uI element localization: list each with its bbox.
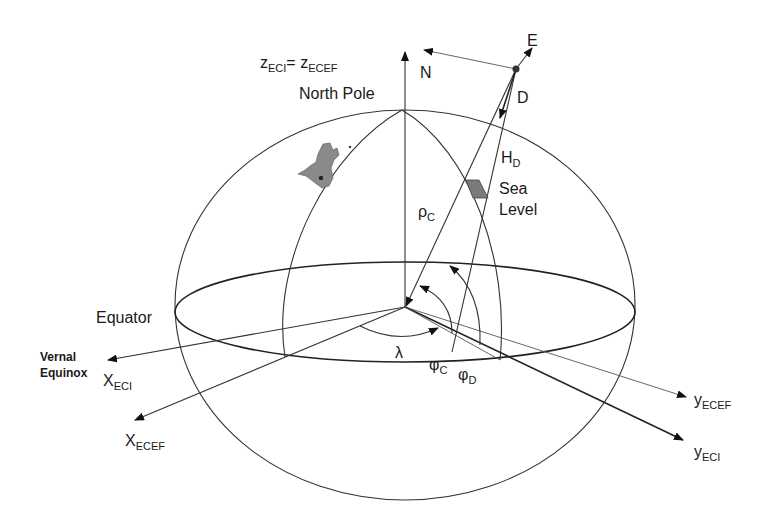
right-meridian	[402, 110, 502, 360]
equator-label: Equator	[96, 309, 153, 326]
lambda-label: λ	[395, 344, 403, 361]
sea-level-label-2: Level	[499, 201, 537, 218]
left-meridian	[283, 110, 402, 357]
east-vector	[516, 48, 532, 69]
coordinate-frame-diagram: zECI= zECEF N North Pole E D HD Sea Leve…	[0, 0, 773, 513]
x-eci-axis	[108, 307, 405, 360]
north-label: N	[420, 64, 432, 81]
phi-d-label: φD	[458, 366, 476, 386]
vehicle-position-point	[513, 66, 520, 73]
z-axis-label: zECI= zECEF	[260, 54, 338, 74]
down-label: D	[517, 89, 529, 106]
north-pole-label: North Pole	[299, 85, 375, 102]
phi-d-arc	[450, 266, 480, 345]
north-vector	[424, 50, 516, 69]
x-eci-label: XECI	[103, 372, 132, 392]
x-ecef-axis	[135, 307, 405, 420]
phi-c-arc	[420, 286, 452, 333]
landmass-dot	[319, 176, 323, 180]
phi-c-label: φC	[429, 356, 447, 376]
island-dot	[349, 146, 352, 149]
east-label: E	[527, 32, 538, 49]
x-ecef-label: XECEF	[125, 432, 165, 452]
landmass-europe	[298, 143, 339, 188]
lambda-arc	[360, 326, 438, 337]
vernal-equinox-label-1: Vernal	[40, 350, 76, 364]
rho-c-label: ρC	[418, 203, 435, 223]
down-vector	[500, 69, 516, 118]
y-eci-label: yECI	[694, 443, 720, 463]
vernal-equinox-label-2: Equinox	[40, 366, 88, 380]
height-label: HD	[501, 149, 521, 169]
sea-level-patch	[466, 180, 488, 198]
sea-level-label-1: Sea	[499, 180, 528, 197]
y-ecef-axis	[405, 307, 686, 397]
y-ecef-label: yECEF	[694, 391, 732, 411]
